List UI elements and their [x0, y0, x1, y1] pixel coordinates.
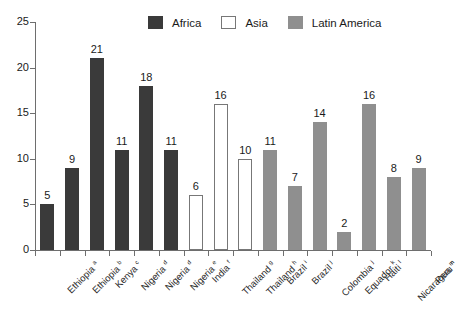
x-axis-label-text: Brazil — [309, 262, 334, 287]
x-tick — [258, 251, 259, 256]
x-axis-label-superscript: c — [133, 259, 139, 265]
x-axis-label-superscript: i — [303, 259, 308, 264]
bar-value-label: 5 — [32, 189, 62, 201]
y-tick-label: 20 — [3, 61, 29, 73]
x-tick — [35, 251, 36, 256]
x-tick — [233, 251, 234, 256]
x-tick — [134, 251, 135, 256]
y-tick-label: 25 — [3, 15, 29, 27]
x-axis-label-superscript: d — [161, 259, 168, 266]
bar-value-label: 21 — [82, 43, 112, 55]
plot-area: 0510152025 5921111811616101171421689 — [35, 22, 431, 250]
y-tick — [30, 204, 35, 205]
x-axis-label-superscript: e — [211, 259, 218, 266]
y-tick-label: 15 — [3, 106, 29, 118]
y-tick-label: 10 — [3, 152, 29, 164]
x-axis-label-superscript: d — [186, 259, 193, 266]
bar[interactable] — [337, 232, 351, 250]
bar-value-label: 18 — [131, 71, 161, 83]
y-tick — [30, 68, 35, 69]
bar[interactable] — [387, 177, 401, 250]
x-tick — [208, 251, 209, 256]
x-axis-label-superscript: j — [328, 259, 333, 264]
x-axis-label: Brazil j — [309, 259, 337, 287]
bar[interactable] — [164, 150, 178, 250]
x-tick — [332, 251, 333, 256]
x-tick — [159, 251, 160, 256]
x-axis-label-superscript: n — [448, 259, 455, 266]
bar[interactable] — [238, 159, 252, 250]
bar[interactable] — [40, 204, 54, 250]
x-axis-label-superscript: g — [267, 259, 274, 266]
bar[interactable] — [90, 58, 104, 250]
bar-value-label: 16 — [206, 89, 236, 101]
bar-value-label: 6 — [181, 180, 211, 192]
y-tick — [30, 113, 35, 114]
y-axis-line — [35, 22, 36, 250]
x-axis-label: Haiti l — [382, 259, 406, 283]
bar-value-label: 7 — [280, 171, 310, 183]
x-axis-label-superscript: j — [369, 259, 374, 264]
x-axis-label-superscript: f — [226, 259, 231, 264]
x-axis-label-superscript: l — [397, 259, 402, 264]
bar-value-label: 11 — [107, 135, 137, 147]
bar[interactable] — [65, 168, 79, 250]
bar[interactable] — [313, 122, 327, 250]
x-tick — [307, 251, 308, 256]
bar-value-label: 2 — [329, 217, 359, 229]
y-tick-label: 5 — [3, 197, 29, 209]
bar-value-label: 9 — [57, 153, 87, 165]
bar-value-label: 11 — [255, 135, 285, 147]
bar[interactable] — [214, 104, 228, 250]
bar[interactable] — [189, 195, 203, 250]
y-tick — [30, 22, 35, 23]
y-tick-label: 0 — [3, 243, 29, 255]
x-tick — [357, 251, 358, 256]
bar[interactable] — [362, 104, 376, 250]
bar-value-label: 14 — [305, 107, 335, 119]
x-tick — [60, 251, 61, 256]
x-tick — [283, 251, 284, 256]
bar[interactable] — [263, 150, 277, 250]
x-axis-label: Peru n — [432, 259, 458, 285]
bar[interactable] — [288, 186, 302, 250]
y-tick — [30, 159, 35, 160]
x-tick — [406, 251, 407, 256]
x-axis-label-superscript: b — [116, 259, 123, 266]
bar[interactable] — [139, 86, 153, 250]
x-tick — [85, 251, 86, 256]
x-tick — [109, 251, 110, 256]
x-tick — [184, 251, 185, 256]
bar-value-label: 16 — [354, 89, 384, 101]
x-axis-label-superscript: a — [91, 259, 98, 266]
x-tick — [382, 251, 383, 256]
bar-value-label: 9 — [404, 153, 434, 165]
bar[interactable] — [115, 150, 129, 250]
bar[interactable] — [412, 168, 426, 250]
bar-value-label: 11 — [156, 135, 186, 147]
x-tick — [431, 251, 432, 256]
